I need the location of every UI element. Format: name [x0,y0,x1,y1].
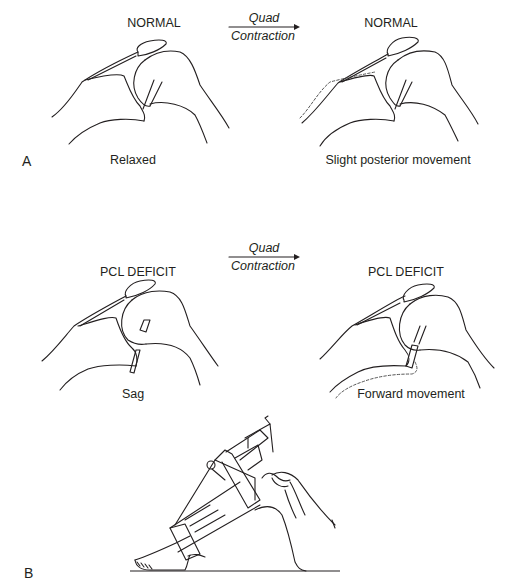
knee-normal-relaxed-drawing [52,40,229,144]
knee-pcl-deficit-sag-drawing [42,280,218,390]
diagram-illustration [0,0,506,583]
knee-pcl-deficit-forward-drawing [320,284,494,398]
leg-testing-device-drawing [130,416,340,571]
arrow-icon [229,24,300,30]
arrow-icon [229,254,300,260]
knee-normal-contraction-drawing [300,37,478,146]
